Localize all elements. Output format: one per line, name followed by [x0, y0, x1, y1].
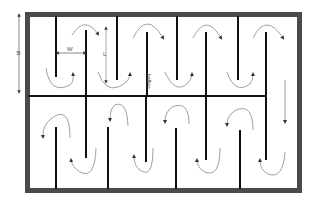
- dimension-b: B: [17, 15, 21, 92]
- svg-text:L: L: [103, 51, 107, 57]
- dimension-l: L: [103, 28, 107, 82]
- svg-text:W: W: [67, 46, 73, 52]
- baffles-label: baffles: [146, 74, 152, 89]
- dimension-w: W: [57, 46, 85, 53]
- flow-arrows-top: [46, 24, 283, 88]
- flow-arrows-bottom: [43, 104, 285, 175]
- svg-text:B: B: [17, 50, 21, 56]
- baffle-diagram: B W L baffles: [0, 0, 316, 205]
- tank-wall: [28, 15, 300, 191]
- bottom-baffles-from-wall: [56, 127, 240, 189]
